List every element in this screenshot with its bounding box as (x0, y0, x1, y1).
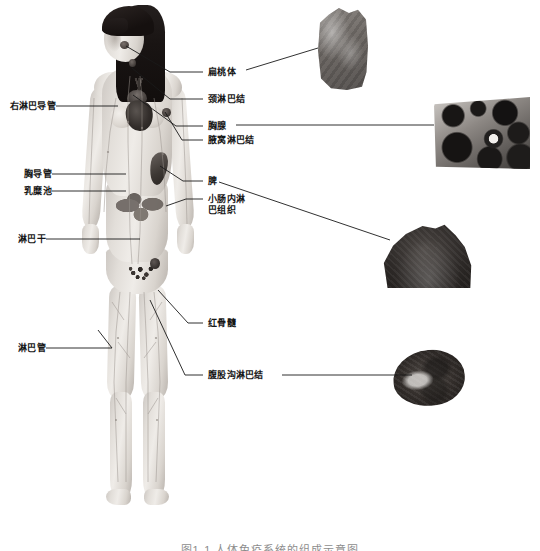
label-cervical-node: 颈淋巴结 (208, 94, 245, 105)
label-spleen: 脾 (208, 176, 217, 187)
figure-caption: 图1-1 人体免疫系统的组成示意图 (0, 541, 540, 551)
label-cisterna-chyli: 乳糜池 (10, 186, 52, 197)
leader-lines (0, 0, 540, 551)
label-red-bone-marrow: 红骨髓 (208, 318, 236, 329)
label-tonsil: 扁桃体 (208, 67, 236, 78)
label-thymus: 胸腺 (208, 121, 227, 132)
figure-canvas: 右淋巴导管 胸导管 乳糜池 淋巴干 淋巴管 扁桃体 颈淋巴结 胸腺 腋窝淋巴结 … (0, 0, 540, 551)
label-lymphatic-vessel: 淋巴管 (10, 343, 46, 354)
label-gut-lymphoid-line2: 巴组织 (208, 205, 236, 216)
label-thoracic-duct: 胸导管 (10, 169, 52, 180)
label-lymphatic-trunk: 淋巴干 (10, 234, 46, 245)
label-inguinal-node: 腹股沟淋巴结 (208, 370, 264, 381)
label-right-lymphatic-duct: 右淋巴导管 (4, 101, 56, 112)
label-gut-lymphoid-line1: 小肠内淋 (208, 194, 245, 205)
label-axillary-node: 腋窝淋巴结 (208, 135, 255, 146)
